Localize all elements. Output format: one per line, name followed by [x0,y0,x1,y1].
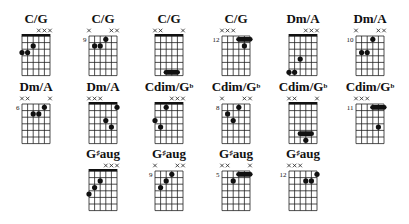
finger-dot [303,178,308,183]
fret-position: 12 [280,171,288,179]
fret-position: 11 [347,104,354,112]
fret-position: 6 [16,104,20,112]
fretboard-grid: 10 [337,12,403,82]
finger-dot [158,125,163,130]
finger-dot [225,111,230,116]
finger-dot [103,118,108,123]
finger-dot [164,178,169,183]
finger-dot [103,37,108,42]
chord-diagram: Cdim/Gb8 [203,80,269,150]
chord-diagram: G♯aug9 [136,147,202,217]
finger-dot [359,50,364,55]
barre [164,70,180,75]
finger-dot [25,50,30,55]
nut [22,34,51,36]
finger-dot [42,105,47,110]
finger-dot [169,172,174,177]
chord-diagram: G♯aug [70,147,136,217]
fretboard-grid: 12 [270,147,336,217]
finger-dot [370,37,375,42]
chord-diagram: G♯aug5 [203,147,269,217]
finger-dot [298,57,303,62]
fretboard-grid [270,12,336,82]
finger-dot [303,138,308,143]
fret-position: 9 [149,171,153,179]
barre [236,37,252,42]
fret-position: 8 [216,104,220,112]
nut [89,169,118,171]
chord-diagram: Cdim/Gb [270,80,336,150]
finger-dot [231,178,236,183]
finger-dot [365,50,370,55]
fretboard-grid [3,12,69,82]
nut [155,34,184,36]
fretboard-grid: 12 [203,12,269,82]
finger-dot [19,50,24,55]
chord-diagram: Dm/A [270,12,336,82]
finger-dot [114,105,119,110]
finger-dot [236,105,241,110]
fret-position: 5 [216,171,220,179]
fretboard-grid: 9 [136,147,202,217]
fretboard-grid: 8 [203,80,269,150]
chord-diagram: Dm/A [70,80,136,150]
finger-dot [31,43,36,48]
chord-diagram: C/G12 [203,12,269,82]
barre [298,131,314,136]
finger-dot [98,43,103,48]
chord-diagram: G♯aug12 [270,147,336,217]
fretboard-grid: 6 [3,80,69,150]
finger-dot [36,111,41,116]
barre [236,172,252,177]
finger-dot [292,70,297,75]
finger-dot [314,172,319,177]
finger-dot [152,118,157,123]
nut [289,102,318,104]
finger-dot [98,178,103,183]
finger-dot [376,125,381,130]
fret-position: 12 [213,36,221,44]
chord-diagram: Cdim/Gb [136,80,202,150]
fretboard-grid [136,80,202,150]
fretboard-grid [70,80,136,150]
fretboard-grid [270,80,336,150]
fretboard-grid: 5 [203,147,269,217]
nut [89,102,118,104]
finger-dot [158,185,163,190]
barre [370,105,386,110]
nut [289,34,318,36]
fret-position: 9 [83,36,87,44]
chord-diagram: C/G9 [70,12,136,82]
finger-dot [286,70,291,75]
chord-diagram: Cdim/Gb11 [337,80,403,150]
finger-dot [92,43,97,48]
finger-dot [242,43,247,48]
fretboard-grid: 9 [70,12,136,82]
fret-position: 10 [347,36,355,44]
finger-dot [109,125,114,130]
finger-dot [309,178,314,183]
finger-dot [92,185,97,190]
finger-dot [231,118,236,123]
finger-dot [164,105,169,110]
finger-dot [86,192,91,197]
chord-diagram: C/G [136,12,202,82]
fretboard-grid [70,147,136,217]
finger-dot [31,111,36,116]
fretboard-grid [136,12,202,82]
nut [155,102,184,104]
chord-diagram: Dm/A10 [337,12,403,82]
chord-diagram: Dm/A6 [3,80,69,150]
fretboard-grid: 11 [337,80,403,150]
chord-diagram: C/G [3,12,69,82]
